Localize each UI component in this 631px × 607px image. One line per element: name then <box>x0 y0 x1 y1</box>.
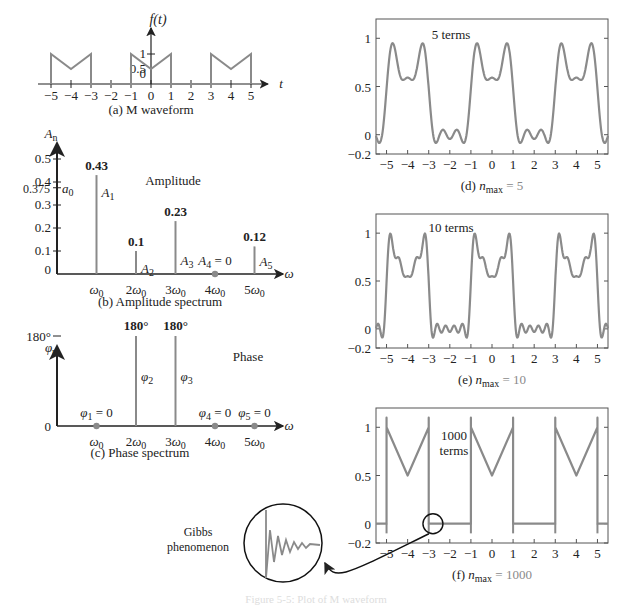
fourier-curve <box>376 418 608 524</box>
annotation-label: 10 terms <box>428 220 473 235</box>
x-tick-label: 2 <box>531 546 538 561</box>
y-tick-label: 0.5 <box>355 80 371 95</box>
y-tick-label: 1 <box>365 31 372 46</box>
panel-caption: (f) nmax = 1000 <box>452 567 532 584</box>
x-axis-label: ω <box>284 266 293 281</box>
panel-caption: (e) nmax = 10 <box>458 372 526 389</box>
value-label: 0.23 <box>164 204 187 219</box>
x-tick-label: −5 <box>380 546 394 561</box>
annotation-label: 5 terms <box>432 27 471 42</box>
y-axis-label: f(t) <box>149 12 166 28</box>
x-tick-label: 2 <box>188 88 195 103</box>
x-tick-label: −3 <box>84 88 98 103</box>
x-tick-label: 5ω0 <box>244 282 265 299</box>
y-tick-label: 0.5 <box>355 274 371 289</box>
annotation-label: Phase <box>233 349 264 364</box>
value-label: 0.1 <box>128 234 144 249</box>
x-tick-label: −1 <box>464 351 478 366</box>
phase-name-label: φ2 <box>141 369 153 386</box>
value-label: 0.12 <box>243 229 266 244</box>
panel-caption: (d) nmax = 5 <box>461 178 523 195</box>
x-tick-label: 5 <box>248 88 255 103</box>
x-tick-label: −5 <box>380 157 394 172</box>
y-tick-label: 0 <box>45 419 52 434</box>
x-tick-label: 4 <box>573 546 580 561</box>
x-tick-label: 1 <box>510 351 517 366</box>
value-label: 180° <box>124 318 149 333</box>
y-axis-label: An <box>44 126 58 143</box>
x-tick-label: 4 <box>573 351 580 366</box>
y-tick-label: 0.5 <box>355 469 371 484</box>
x-tick-label: −4 <box>401 351 415 366</box>
x-tick-label: −1 <box>124 88 138 103</box>
annotation-label: 1000 <box>441 428 467 443</box>
x-tick-label: −2 <box>443 351 457 366</box>
x-tick-label: 3 <box>208 88 215 103</box>
bar-name-label: A3 <box>180 253 194 270</box>
x-tick-label: −1 <box>464 546 478 561</box>
x-tick-label: 2 <box>531 157 538 172</box>
figure-canvas: −5−4−3−2−101234500.51f(t)t(a) M waveform… <box>0 0 631 607</box>
x-tick-label: −2 <box>443 546 457 561</box>
annotation-label: Amplitude <box>145 173 201 188</box>
y-tick-label: 0.5 <box>35 151 51 166</box>
x-tick-label: 1 <box>168 88 175 103</box>
fourier-curve <box>376 234 608 338</box>
panel-caption: (c) Phase spectrum <box>91 445 190 460</box>
x-tick-label: 3 <box>552 157 559 172</box>
x-tick-label: 4 <box>573 157 580 172</box>
a0-label: a0 <box>62 181 74 198</box>
bar-name-label: A5 <box>259 254 273 271</box>
x-tick-label: 5 <box>594 157 601 172</box>
figure-caption: Figure 5-5: Plot of M waveform <box>245 593 387 605</box>
a0-value-label: 0.375 <box>23 182 50 196</box>
gibbs-label: phenomenon <box>167 540 229 554</box>
x-tick-label: −2 <box>443 157 457 172</box>
x-tick-label: 5 <box>594 546 601 561</box>
y-tick-label: −0.2 <box>347 341 371 356</box>
x-tick-label: 2 <box>531 351 538 366</box>
zero-point <box>212 271 218 277</box>
y-tick-label: 0 <box>365 128 372 143</box>
panel-b-amplitude-spectrum: 00.10.20.30.40.50.375a0ω00.43A12ω00.1A23… <box>23 126 294 309</box>
x-tick-label: −2 <box>104 88 118 103</box>
x-tick-label: −4 <box>401 157 415 172</box>
zero-point <box>251 423 257 429</box>
y-tick-label: −0.2 <box>347 536 371 551</box>
x-tick-label: 0 <box>489 351 496 366</box>
x-tick-label: 3 <box>552 351 559 366</box>
phase-name-label: φ4 = 0 <box>199 405 232 422</box>
panel-a-m-waveform: −5−4−3−2−101234500.51f(t)t(a) M waveform <box>38 12 283 117</box>
x-tick-label: 0 <box>148 88 155 103</box>
y-tick-label: −0.2 <box>347 147 371 162</box>
bar-name-label: A2 <box>140 261 154 278</box>
x-tick-label: 3 <box>552 546 559 561</box>
x-tick-label: −5 <box>380 351 394 366</box>
bar-name-label: A1 <box>101 185 115 202</box>
y-tick-label: 0 <box>365 322 372 337</box>
panel-caption: (a) M waveform <box>108 102 193 117</box>
panel-f-fourier-1000-terms: −5−4−3−2−1012345−0.200.511000terms(f) nm… <box>347 408 608 584</box>
plot-frame <box>376 214 608 348</box>
x-tick-label: 5ω0 <box>244 434 265 451</box>
y-tick-label: 1 <box>365 420 372 435</box>
x-tick-label: −4 <box>64 88 78 103</box>
y-tick-label: 0.1 <box>35 243 51 258</box>
x-tick-label: 4 <box>228 88 235 103</box>
x-tick-label: 5 <box>594 351 601 366</box>
gibbs-label: Gibbs <box>184 525 213 539</box>
x-tick-label: −4 <box>401 546 415 561</box>
x-axis-label: t <box>279 76 283 91</box>
y-tick-label: 0 <box>365 517 372 532</box>
panel-caption: (b) Amplitude spectrum <box>98 294 222 309</box>
x-axis-label: ω <box>284 418 293 433</box>
panel-c-phase-spectrum: 0180°ω0φ1 = 02ω0180°φ23ω0180°φ34ω0φ4 = 0… <box>26 318 293 460</box>
panel-e-fourier-10-terms: −5−4−3−2−1012345−0.200.5110 terms(e) nma… <box>347 214 608 389</box>
y-tick-label: 0.3 <box>35 197 51 212</box>
y-axis-label: φn <box>45 340 57 357</box>
x-tick-label: 1 <box>510 157 517 172</box>
value-label: 180° <box>163 318 188 333</box>
x-tick-label: 1 <box>510 546 517 561</box>
phase-name-label: φ3 <box>181 369 193 386</box>
x-tick-label: −3 <box>422 546 436 561</box>
